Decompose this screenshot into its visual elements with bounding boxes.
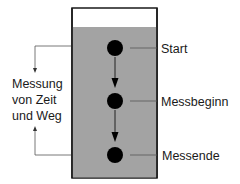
side-annotation-line: Messung	[12, 76, 63, 92]
side-annotation: Messung von Zeit und Weg	[12, 76, 63, 124]
label-start: Start	[161, 42, 187, 57]
ball-messende	[107, 147, 123, 163]
side-annotation-line: und Weg	[12, 108, 63, 124]
ball-messbeginn	[107, 93, 123, 109]
side-annotation-line: von Zeit	[12, 92, 63, 108]
label-messende: Messende	[162, 149, 220, 164]
label-messbeginn: Messbeginn	[161, 95, 228, 110]
ball-start	[107, 40, 123, 56]
